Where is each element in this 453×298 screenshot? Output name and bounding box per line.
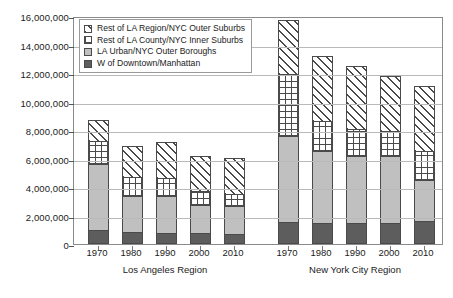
bar-column	[156, 142, 177, 244]
bar-segment-urban_outer_boroughs	[312, 151, 333, 224]
cross-hatch-swatch	[84, 36, 92, 44]
bar-segment-rest_county_inner_suburbs	[224, 194, 245, 205]
y-tick-label: 2,000,000	[26, 211, 69, 222]
y-tick-label: 14,000,000	[20, 40, 69, 51]
y-axis-tick	[69, 104, 74, 105]
y-axis-tick	[69, 189, 74, 190]
bar-segment-rest_county_inner_suburbs	[190, 191, 211, 205]
light-gray-swatch	[84, 48, 92, 56]
y-axis-tick	[69, 161, 74, 162]
bar-segment-rest_county_inner_suburbs	[312, 121, 333, 150]
bar-segment-w_downtown	[190, 233, 211, 244]
dark-gray-swatch	[84, 60, 92, 68]
y-tick-label: 4,000,000	[26, 183, 69, 194]
x-tick-label: 2000	[188, 247, 209, 258]
legend-item-label: Rest of LA County/NYC Inner Suburbs	[97, 36, 243, 45]
group-label: New York City Region	[309, 264, 401, 275]
chart-legend: Rest of LA Region/NYC Outer SuburbsRest …	[79, 19, 252, 73]
y-tick-label: 12,000,000	[20, 69, 69, 80]
bar-column	[224, 158, 245, 244]
x-tick-label: 2010	[222, 247, 243, 258]
legend-item-label: LA Urban/NYC Outer Boroughs	[97, 47, 216, 56]
x-tick-label: 1990	[154, 247, 175, 258]
x-tick-label: 2010	[412, 247, 433, 258]
bar-column	[88, 120, 109, 244]
bar-segment-w_downtown	[88, 230, 109, 244]
x-tick-label: 1980	[120, 247, 141, 258]
y-axis-tick	[69, 47, 74, 48]
bar-segment-rest_county_inner_suburbs	[414, 151, 435, 180]
gridline	[74, 218, 442, 219]
bar-segment-urban_outer_boroughs	[224, 206, 245, 235]
bar-segment-rest_county_inner_suburbs	[380, 131, 401, 155]
legend-item: Rest of LA Region/NYC Outer Suburbs	[84, 23, 245, 35]
x-tick-label: 1970	[276, 247, 297, 258]
chart-container: 02,000,0004,000,0006,000,0008,000,00010,…	[0, 0, 453, 298]
x-tick-label: 2000	[378, 247, 399, 258]
bar-segment-rest_region_outer_suburbs	[414, 86, 435, 152]
bar-segment-urban_outer_boroughs	[122, 196, 143, 232]
y-axis-tick	[69, 75, 74, 76]
bar-segment-rest_county_inner_suburbs	[278, 74, 299, 136]
y-tick-label: 10,000,000	[20, 97, 69, 108]
gridline	[74, 161, 442, 162]
bar-segment-w_downtown	[312, 223, 333, 244]
bar-segment-rest_region_outer_suburbs	[312, 56, 333, 122]
y-axis-tick	[69, 18, 74, 19]
gridline	[74, 132, 442, 133]
y-axis-labels: 02,000,0004,000,0006,000,0008,000,00010,…	[0, 17, 69, 245]
bar-segment-urban_outer_boroughs	[190, 205, 211, 234]
bar-segment-rest_region_outer_suburbs	[190, 156, 211, 190]
bar-segment-w_downtown	[346, 223, 367, 244]
legend-item: LA Urban/NYC Outer Boroughs	[84, 46, 245, 58]
y-axis-tick	[69, 132, 74, 133]
bar-segment-rest_region_outer_suburbs	[88, 120, 109, 141]
bar-segment-rest_county_inner_suburbs	[122, 177, 143, 196]
bar-segment-urban_outer_boroughs	[278, 136, 299, 222]
bar-segment-w_downtown	[224, 234, 245, 244]
legend-item-label: W of Downtown/Manhattan	[97, 59, 200, 68]
bar-column	[190, 156, 211, 244]
bar-segment-urban_outer_boroughs	[414, 180, 435, 221]
y-tick-label: 6,000,000	[26, 154, 69, 165]
y-tick-label: 8,000,000	[26, 126, 69, 137]
x-tick-label: 1970	[86, 247, 107, 258]
bar-segment-w_downtown	[278, 222, 299, 244]
diagonal-hatch-swatch	[84, 25, 92, 33]
bar-column	[414, 86, 435, 244]
legend-item: Rest of LA County/NYC Inner Suburbs	[84, 35, 245, 47]
bar-column	[312, 56, 333, 244]
legend-item: W of Downtown/Manhattan	[84, 58, 245, 70]
x-tick-label: 1990	[344, 247, 365, 258]
gridline	[74, 104, 442, 105]
bar-segment-urban_outer_boroughs	[156, 196, 177, 232]
bar-segment-rest_county_inner_suburbs	[156, 178, 177, 197]
bar-segment-w_downtown	[122, 232, 143, 244]
bar-segment-w_downtown	[156, 233, 177, 244]
bar-segment-urban_outer_boroughs	[88, 164, 109, 230]
bar-segment-w_downtown	[380, 223, 401, 244]
legend-item-label: Rest of LA Region/NYC Outer Suburbs	[97, 24, 245, 33]
bar-segment-w_downtown	[414, 221, 435, 244]
group-label: Los Angeles Region	[123, 264, 208, 275]
y-tick-label: 16,000,000	[20, 12, 69, 23]
gridline	[74, 189, 442, 190]
gridline	[74, 75, 442, 76]
x-tick-label: 1980	[310, 247, 331, 258]
y-axis-tick	[69, 218, 74, 219]
